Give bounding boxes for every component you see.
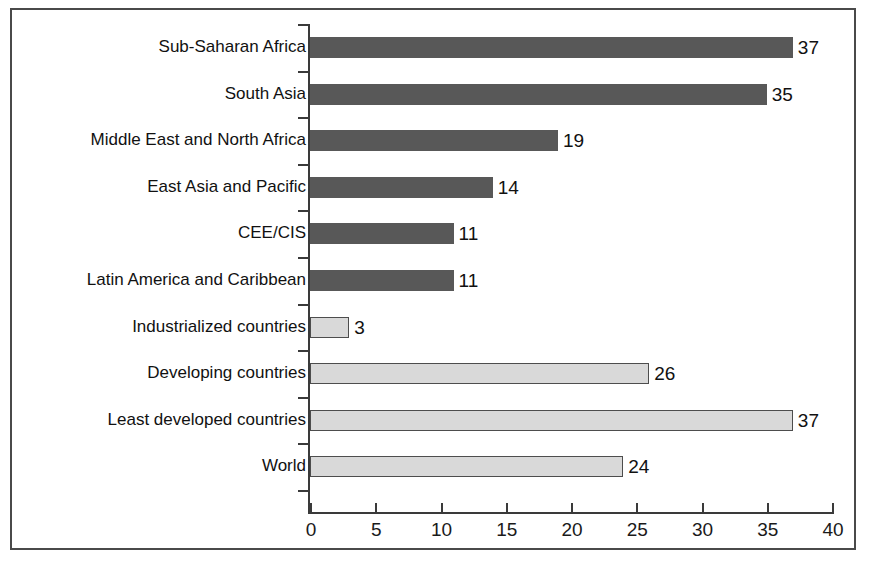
bar-row: Least developed countries37 xyxy=(12,397,858,443)
bar-row: Sub-Saharan Africa37 xyxy=(12,24,858,70)
x-axis-tick xyxy=(506,503,508,514)
x-axis-tick xyxy=(375,503,377,514)
bar-value-label: 24 xyxy=(628,456,649,477)
x-axis-tick-label: 25 xyxy=(614,518,660,542)
x-axis-tick-label: 15 xyxy=(484,518,530,542)
bar-value-label: 37 xyxy=(798,37,819,58)
x-axis-tick xyxy=(636,503,638,514)
bar-value-label: 11 xyxy=(459,270,479,291)
bar xyxy=(310,130,558,151)
bar xyxy=(310,37,793,58)
bar xyxy=(310,410,793,431)
bar-value-label: 19 xyxy=(563,130,584,151)
x-axis-line xyxy=(308,512,832,514)
x-axis-tick xyxy=(832,503,834,514)
bar xyxy=(310,223,454,244)
bar-row: Industrialized countries3 xyxy=(12,304,858,350)
bar xyxy=(310,84,767,105)
bar-value-label: 11 xyxy=(459,223,479,244)
bar-row: South Asia35 xyxy=(12,71,858,117)
category-label: East Asia and Pacific xyxy=(6,164,306,210)
x-axis-tick xyxy=(441,503,443,514)
bar-row: Developing countries26 xyxy=(12,350,858,396)
bar xyxy=(310,177,493,198)
category-label: CEE/CIS xyxy=(6,210,306,256)
bar xyxy=(310,456,623,477)
category-label: Least developed countries xyxy=(6,397,306,443)
category-label: South Asia xyxy=(6,71,306,117)
category-label: Industrialized countries xyxy=(6,304,306,350)
x-axis-tick-label: 10 xyxy=(419,518,465,542)
chart-frame-border: Sub-Saharan Africa37South Asia35Middle E… xyxy=(10,8,856,550)
bar xyxy=(310,317,349,338)
x-axis-tick-label: 20 xyxy=(549,518,595,542)
x-axis-tick xyxy=(571,503,573,514)
bar-chart-figure: Sub-Saharan Africa37South Asia35Middle E… xyxy=(0,0,875,568)
category-label: Sub-Saharan Africa xyxy=(6,24,306,70)
bar-value-label: 35 xyxy=(772,84,793,105)
bar xyxy=(310,270,454,291)
x-axis-tick-label: 0 xyxy=(288,518,334,542)
x-axis-tick-label: 40 xyxy=(810,518,856,542)
bar-row: CEE/CIS11 xyxy=(12,210,858,256)
bar-value-label: 37 xyxy=(798,410,819,431)
category-label: World xyxy=(6,443,306,489)
bar xyxy=(310,363,649,384)
y-axis-tick xyxy=(298,490,310,492)
x-axis-tick-label: 30 xyxy=(680,518,726,542)
bar-value-label: 26 xyxy=(654,363,675,384)
bar-row: World24 xyxy=(12,443,858,489)
x-axis-tick xyxy=(767,503,769,514)
bar-value-label: 3 xyxy=(354,317,365,338)
x-axis-tick-label: 5 xyxy=(353,518,399,542)
plot-area: Sub-Saharan Africa37South Asia35Middle E… xyxy=(12,10,858,552)
x-axis-tick xyxy=(310,503,312,514)
bar-row: Latin America and Caribbean11 xyxy=(12,257,858,303)
category-label: Middle East and North Africa xyxy=(6,117,306,163)
bar-value-label: 14 xyxy=(498,177,519,198)
category-label: Developing countries xyxy=(6,350,306,396)
x-axis-tick-label: 35 xyxy=(745,518,791,542)
x-axis-tick xyxy=(702,503,704,514)
bar-row: East Asia and Pacific14 xyxy=(12,164,858,210)
category-label: Latin America and Caribbean xyxy=(6,257,306,303)
bar-row: Middle East and North Africa19 xyxy=(12,117,858,163)
